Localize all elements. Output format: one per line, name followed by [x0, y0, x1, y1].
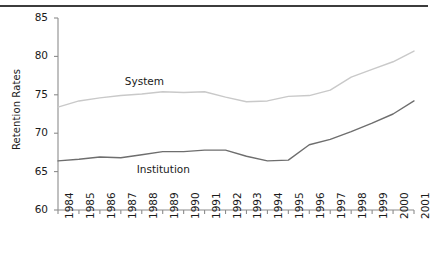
- x-axis-tick-label: 1990: [189, 192, 201, 219]
- x-axis-tick-label: 1998: [356, 192, 368, 219]
- series-line-institution: [58, 101, 414, 161]
- series-line-system: [58, 51, 414, 107]
- y-axis-tick-label: 85: [22, 11, 48, 23]
- y-axis-tick-label: 75: [22, 88, 48, 100]
- x-axis-tick-label: 1995: [293, 192, 305, 219]
- series-label-institution: Institution: [137, 163, 190, 175]
- x-axis-tick-label: 2001: [419, 192, 431, 219]
- x-axis-tick-label: 1989: [168, 192, 180, 219]
- x-axis-tick-label: 2000: [398, 192, 410, 219]
- x-axis-tick-label: 1996: [314, 192, 326, 219]
- x-axis-tick-label: 1994: [272, 192, 284, 219]
- x-axis-tick-label: 1997: [335, 192, 347, 219]
- x-axis-tick-label: 1991: [210, 192, 222, 219]
- top-horizontal-rule: [0, 5, 428, 7]
- x-axis-tick-label: 1984: [63, 192, 75, 219]
- x-axis-tick-label: 1988: [147, 192, 159, 219]
- x-axis-tick-label: 1985: [84, 192, 96, 219]
- x-axis-tick-label: 1987: [126, 192, 138, 219]
- y-axis-tick-label: 65: [22, 165, 48, 177]
- x-axis-tick-label: 1993: [251, 192, 263, 219]
- x-axis-tick-label: 1986: [105, 192, 117, 219]
- y-axis-tick-label: 60: [22, 203, 48, 215]
- series-label-system: System: [125, 75, 164, 87]
- y-axis-title: Retention Rates: [11, 50, 22, 170]
- x-axis-tick-label: 1992: [231, 192, 243, 219]
- y-axis-tick-label: 70: [22, 126, 48, 138]
- x-axis-tick-label: 1999: [377, 192, 389, 219]
- y-axis-tick-label: 80: [22, 49, 48, 61]
